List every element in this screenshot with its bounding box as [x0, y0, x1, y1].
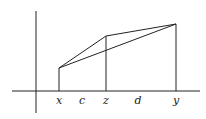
label-d: d: [134, 95, 141, 106]
chord-x-to-y: [59, 24, 176, 68]
label-z: z: [103, 95, 109, 106]
label-y: y: [173, 95, 179, 106]
segment-z-to-y: [106, 24, 176, 36]
label-c: c: [79, 95, 85, 106]
segment-x-to-z: [59, 36, 106, 68]
label-x: x: [56, 95, 62, 106]
